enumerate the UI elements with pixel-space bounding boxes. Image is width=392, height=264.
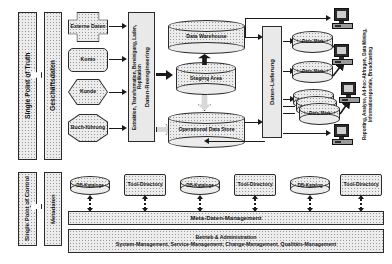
operations-title: Betrieb & Administration [196, 235, 257, 240]
meta-connector [360, 199, 362, 208]
column-metadaten: Metadaten [44, 172, 62, 246]
store-label: Staging Area [176, 76, 236, 81]
diagram-canvas: Single Point of Truth Geschäftsdaten Sin… [0, 0, 392, 264]
arrow-head [326, 15, 331, 21]
workstation-3-icon[interactable] [339, 82, 360, 103]
arrow-head [166, 70, 173, 80]
cylinder-top [168, 112, 245, 124]
data-mart-label: Data-Mart [292, 70, 333, 75]
workstation-1-icon[interactable] [332, 8, 353, 29]
reengineering-detail: Extraktion, Transformation, Bereinigung,… [133, 13, 144, 141]
meta-tool-directory-3[interactable]: Tool-Directory [340, 174, 382, 196]
arrow-head [122, 89, 127, 95]
bar-meta-daten-management: Meta-Daten-Management [68, 211, 384, 225]
source-konto[interactable]: Konto [68, 48, 108, 72]
meta-tool-directory-2[interactable]: Tool-Directory [234, 174, 276, 196]
data-mart-label: Data-Mart [299, 112, 340, 117]
workstation-2-icon[interactable] [332, 44, 353, 65]
arrow-line [283, 133, 329, 134]
bar-betrieb-administration: Betrieb & Administration System-Manageme… [68, 229, 384, 253]
meta-tool-directory-1[interactable]: Tool-Directory [124, 174, 166, 196]
arrow-line [109, 128, 123, 129]
meta-node-label: Tool-Directory [343, 182, 378, 187]
arrow-line [109, 92, 123, 93]
arrow-line [109, 26, 123, 27]
cylinder-bottom [168, 42, 245, 54]
computer-tower [332, 23, 353, 29]
bar-label: Meta-Daten-Management [190, 215, 261, 221]
monitor-screen [334, 8, 349, 21]
arrow-line [245, 18, 329, 19]
column-geschaeftsdaten: Geschäftsdaten [44, 12, 62, 160]
meta-node-label: DB-Kataloge [70, 183, 110, 188]
source-kunde[interactable]: Kunde [68, 79, 108, 105]
arrow-line [283, 113, 295, 114]
monitor-screen [341, 82, 356, 95]
meta-node-label: Tool-Directory [127, 182, 162, 187]
store-staging-area[interactable]: Staging Area [176, 62, 236, 95]
meta-db-kataloge-1[interactable]: DB-Kataloge [70, 176, 110, 195]
meta-node-label: DB-Kataloge [180, 183, 220, 188]
store-label: Data Warehouse [168, 34, 245, 39]
source-label: Buch-führung [68, 114, 108, 142]
meta-db-kataloge-2[interactable]: DB-Kataloge [180, 176, 220, 195]
monitor-screen [334, 124, 349, 137]
meta-db-katalog-3[interactable]: DB-Katalog [290, 176, 330, 195]
data-mart-1[interactable]: Data-Mart [292, 31, 333, 53]
arrow-head [326, 130, 331, 136]
process-daten-lieferung: Daten-Lieferung [262, 26, 282, 138]
column-single-point-of-truth: Single Point of Truth [18, 12, 37, 160]
arrow-head [122, 56, 127, 62]
meta-connector [199, 199, 201, 208]
data-mart-3[interactable]: Data-Mart [299, 103, 340, 125]
hollow-arrow-staging-to-ods [198, 94, 211, 111]
data-mart-2[interactable]: Data-Mart [292, 61, 333, 83]
source-externe-daten[interactable]: Externe Daten [68, 12, 108, 42]
source-label: Externe Daten [68, 12, 108, 42]
store-data-warehouse[interactable]: Data Warehouse [168, 20, 245, 54]
meta-node-label: Tool-Directory [237, 182, 272, 187]
arrow-line [245, 18, 246, 38]
source-buchfuehrung[interactable]: Buch-führung [68, 114, 108, 142]
source-label: Konto [81, 57, 96, 62]
computer-tower [332, 139, 353, 145]
computer-tower [339, 97, 360, 103]
meta-connector [309, 199, 311, 208]
cylinder-top [168, 20, 245, 32]
arrow-line [109, 59, 123, 60]
operations-detail: System-Management, Service-Management, C… [116, 242, 337, 247]
consumers-label: Reporting, Analyse, Ad-hoc-Abfragen, Dat… [362, 12, 384, 157]
meta-node-label: DB-Katalog [290, 183, 330, 188]
workstation-4-icon[interactable] [332, 124, 353, 145]
arrow-head [204, 138, 209, 144]
arrow-head [122, 23, 127, 29]
data-mart-label: Data-Mart [292, 40, 333, 45]
store-label: Operational Data Store [168, 127, 245, 132]
source-label: Kunde [68, 79, 108, 105]
computer-tower [332, 59, 353, 65]
reengineering-title: Daten-Reengineering [144, 47, 150, 107]
monitor-screen [334, 44, 349, 57]
arrow-head [122, 125, 127, 131]
cylinder-bottom [176, 83, 236, 95]
meta-connector [254, 199, 256, 208]
meta-connector [89, 199, 91, 208]
feedback-line [208, 141, 265, 142]
meta-connector [144, 199, 146, 208]
process-daten-reengineering: Extraktion, Transformation, Bereinigung,… [128, 12, 155, 142]
